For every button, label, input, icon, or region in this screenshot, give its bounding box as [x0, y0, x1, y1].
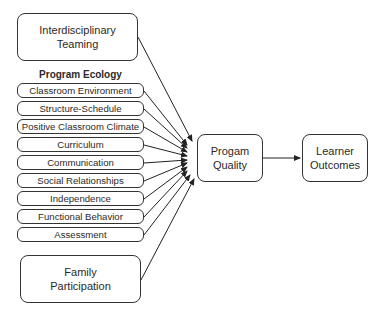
family-label-line1: Family	[50, 265, 111, 279]
arrow-positive-climate	[144, 127, 187, 152]
ecology-item-curriculum: Curriculum	[17, 137, 144, 152]
interdisciplinary-teaming-box: Interdisciplinary Teaming	[17, 13, 138, 61]
learner-outcomes-box: Learner Outcomes	[302, 134, 368, 182]
teaming-label-line1: Interdisciplinary	[39, 23, 115, 37]
program-quality-box: Progam Quality	[197, 134, 263, 182]
ecology-item-assessment: Assessment	[17, 227, 144, 242]
ecology-item-label: Social Relationships	[37, 176, 123, 186]
learner-outcomes-line2: Outcomes	[310, 158, 360, 172]
arrow-family	[141, 179, 194, 280]
learner-outcomes-line1: Learner	[310, 144, 360, 158]
ecology-item-positive-classroom-climate: Positive Classroom Climate	[17, 119, 144, 134]
ecology-item-label: Functional Behavior	[38, 212, 123, 222]
family-participation-box: Family Participation	[20, 255, 141, 303]
ecology-item-functional-behavior: Functional Behavior	[17, 209, 144, 224]
ecology-item-communication: Communication	[17, 155, 144, 170]
ecology-item-label: Positive Classroom Climate	[22, 122, 139, 132]
ecology-item-classroom-environment: Classroom Environment	[17, 83, 144, 98]
ecology-item-structure-schedule: Structure-Schedule	[17, 101, 144, 116]
ecology-item-independence: Independence	[17, 191, 144, 206]
teaming-label-line2: Teaming	[39, 37, 115, 51]
program-quality-line1: Progam	[211, 144, 250, 158]
ecology-item-label: Structure-Schedule	[39, 104, 121, 114]
ecology-item-label: Independence	[50, 194, 111, 204]
arrow-communication	[144, 160, 187, 163]
ecology-item-label: Curriculum	[57, 140, 103, 150]
ecology-item-label: Assessment	[54, 230, 106, 240]
program-ecology-title: Program Ecology	[17, 69, 144, 80]
ecology-item-label: Classroom Environment	[29, 86, 131, 96]
family-label-line2: Participation	[50, 279, 111, 293]
ecology-item-label: Communication	[47, 158, 114, 168]
program-quality-line2: Quality	[211, 158, 250, 172]
ecology-item-social-relationships: Social Relationships	[17, 173, 144, 188]
arrow-structure-schedule	[144, 109, 187, 148]
arrow-teaming	[138, 37, 192, 141]
arrow-assessment	[144, 175, 190, 235]
arrow-curriculum	[144, 145, 187, 156]
